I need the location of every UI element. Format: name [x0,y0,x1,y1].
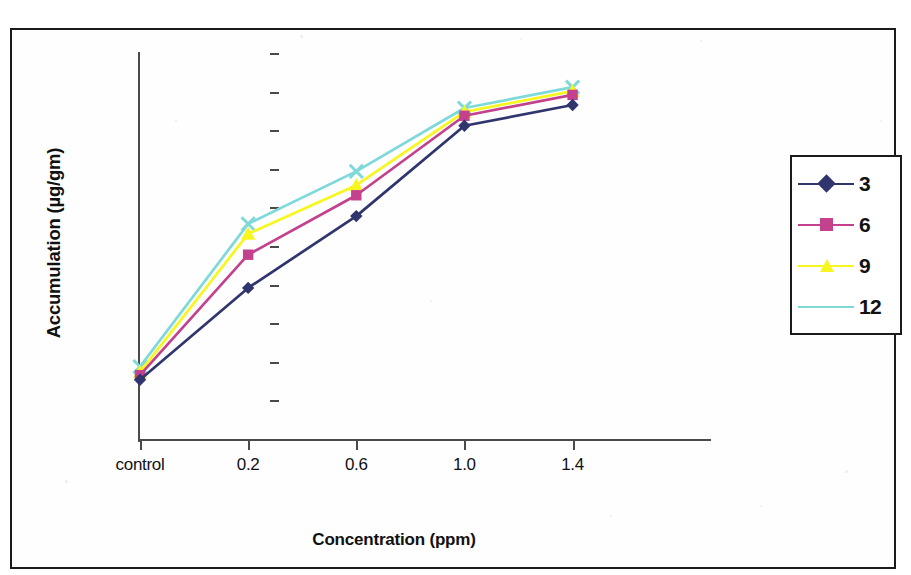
data-point-6-0.2 [243,250,253,260]
legend-key-triangle-icon [798,256,854,276]
scan-artifact [760,505,762,507]
data-point-6-0.6 [351,190,361,200]
data-point-3-1.4 [566,99,578,111]
legend-item-12[interactable]: 12 [792,290,900,324]
scan-artifact [65,480,68,483]
data-point-6-1.0 [459,111,469,121]
chart-legend: 36912 [790,155,902,335]
legend-label: 12 [859,295,881,319]
legend-label: 6 [859,213,870,237]
line-chart-figure: Accumulation (µg/gm) Concentration (ppm)… [0,0,911,575]
scan-artifact [880,120,882,122]
scan-artifact [430,300,432,302]
legend-item-9[interactable]: 9 [792,249,900,283]
legend-key-diamond-icon [798,174,854,194]
plot-series-layer [0,0,911,575]
scan-artifact [300,35,303,38]
series-line-6 [140,95,573,375]
scan-artifact [610,515,612,517]
legend-item-3[interactable]: 3 [792,167,900,201]
data-point-9-0.6 [349,178,363,191]
legend-item-6[interactable]: 6 [792,208,900,242]
legend-label: 9 [859,254,870,278]
series-line-9 [140,91,573,372]
legend-label: 3 [859,172,870,196]
legend-key-cross-icon [798,297,854,317]
data-point-12-0.6 [350,165,363,178]
legend-key-square-icon [798,215,854,235]
scan-artifact [520,38,522,40]
data-point-6-1.4 [567,90,577,100]
scan-artifact [700,40,702,42]
series-line-3 [140,105,573,380]
scan-artifact [845,470,848,473]
scan-artifact [175,120,177,122]
